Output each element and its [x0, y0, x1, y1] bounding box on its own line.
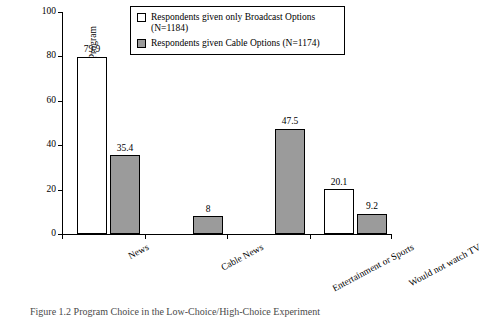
bar-value-news-cable: 35.4: [100, 143, 150, 153]
bar-value-notwatch-broadcast: 20.1: [314, 177, 364, 187]
x-tick-mark-1: [145, 234, 146, 239]
y-tick-label-0: 0: [34, 229, 56, 238]
x-tick-mark-4: [391, 234, 392, 239]
chart-legend: Respondents given only Broadcast Options…: [130, 6, 345, 55]
x-category-label-not-watch: Would not watch TV: [407, 242, 482, 289]
x-category-label-entertainment: Entertainment or Sports: [331, 242, 416, 294]
bar-value-entertainment-cable: 47.5: [265, 116, 315, 126]
y-axis-line: [62, 12, 63, 234]
y-tick-mark-80: [58, 56, 63, 57]
y-tick-mark-20: [58, 190, 63, 191]
x-tick-mark-3: [310, 234, 311, 239]
legend-swatch-open-icon: [137, 13, 146, 22]
bar-value-cablenews-cable: 8: [183, 204, 233, 214]
y-tick-mark-40: [58, 145, 63, 146]
figure-caption: Figure 1.2 Program Choice in the Low-Cho…: [30, 306, 410, 318]
x-category-label-cable-news: Cable News: [219, 242, 265, 273]
y-tick-label-100: 100: [34, 7, 56, 16]
bar-value-news-broadcast: 79.9: [67, 44, 117, 54]
bar-news-cable: [110, 155, 140, 234]
legend-label-cable: Respondents given Cable Options (N=1174): [151, 38, 320, 49]
y-tick-label-20: 20: [34, 185, 56, 194]
bar-value-notwatch-cable: 9.2: [347, 201, 397, 211]
y-tick-mark-100: [58, 12, 63, 13]
y-tick-label-40: 40: [34, 140, 56, 149]
bar-notwatch-broadcast: [324, 189, 354, 234]
y-tick-mark-60: [58, 101, 63, 102]
x-category-label-news: News: [127, 242, 151, 262]
y-tick-label-60: 60: [34, 96, 56, 105]
x-tick-mark-0: [62, 234, 63, 239]
bar-cablenews-cable: [193, 216, 223, 234]
legend-label-broadcast: Respondents given only Broadcast Options…: [151, 12, 336, 34]
legend-item-cable: Respondents given Cable Options (N=1174): [137, 38, 336, 49]
legend-item-broadcast: Respondents given only Broadcast Options…: [137, 12, 336, 34]
bar-entertainment-cable: [275, 129, 305, 235]
y-tick-label-80: 80: [34, 51, 56, 60]
x-tick-mark-2: [227, 234, 228, 239]
legend-swatch-filled-icon: [137, 39, 146, 48]
bar-notwatch-cable: [357, 214, 387, 234]
